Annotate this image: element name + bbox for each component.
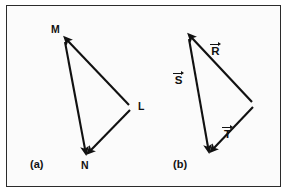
arrow-t-vector xyxy=(214,107,253,148)
vector-label-t: T xyxy=(222,125,233,141)
arrow-m-to-n xyxy=(65,42,85,149)
arrow-s-vector xyxy=(189,39,208,147)
vector-arrow-accent-r xyxy=(210,42,221,47)
vector-symbol-t: T xyxy=(222,129,233,141)
vertex-label-m: M xyxy=(51,24,60,35)
vector-arrow-accent-s xyxy=(173,71,184,76)
vector-label-r: R xyxy=(210,42,221,58)
arrow-l-to-m xyxy=(68,41,129,105)
panel-a-arrows xyxy=(65,41,130,150)
vector-symbol-s: S xyxy=(173,75,184,87)
vertex-label-n: N xyxy=(81,160,89,171)
vector-diagram-figure: M L N (a) (b) R S T xyxy=(0,0,288,193)
arrow-r-vector xyxy=(192,38,252,102)
vector-arrow-accent-t xyxy=(222,125,233,130)
vector-label-s: S xyxy=(173,71,184,87)
arrow-l-to-n xyxy=(91,110,130,150)
panel-b-arrows xyxy=(189,38,253,148)
vertex-label-l: L xyxy=(138,101,144,112)
panel-caption-b: (b) xyxy=(173,159,187,170)
vector-symbol-r: R xyxy=(210,46,221,58)
panel-caption-a: (a) xyxy=(30,159,43,170)
